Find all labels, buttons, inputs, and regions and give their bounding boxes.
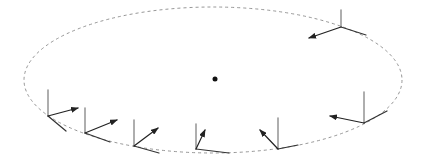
- direction-arrow-icon: [134, 128, 158, 146]
- coordinate-frame: [309, 10, 366, 38]
- direction-arrow-icon: [48, 108, 78, 116]
- direction-arrow-icon: [196, 130, 205, 149]
- coordinate-frame: [260, 118, 298, 149]
- coordinate-frame: [85, 108, 117, 142]
- radial-axis: [85, 133, 110, 142]
- central-body: [213, 77, 218, 82]
- radial-axis: [341, 27, 366, 35]
- radial-axis: [48, 116, 66, 131]
- radial-axis: [364, 111, 387, 123]
- radial-axis: [134, 146, 159, 153]
- coordinate-frame: [330, 92, 387, 123]
- radial-axis: [278, 145, 298, 149]
- direction-arrow-icon: [85, 120, 117, 133]
- diagram-canvas: [0, 0, 423, 163]
- coordinate-frames: [48, 10, 387, 153]
- direction-arrow-icon: [330, 116, 364, 123]
- orbit-diagram: [0, 0, 423, 163]
- coordinate-frame: [48, 90, 78, 131]
- coordinate-frame: [196, 124, 229, 153]
- radial-axis: [196, 149, 229, 153]
- direction-arrow-icon: [260, 130, 278, 149]
- direction-arrow-icon: [309, 27, 341, 38]
